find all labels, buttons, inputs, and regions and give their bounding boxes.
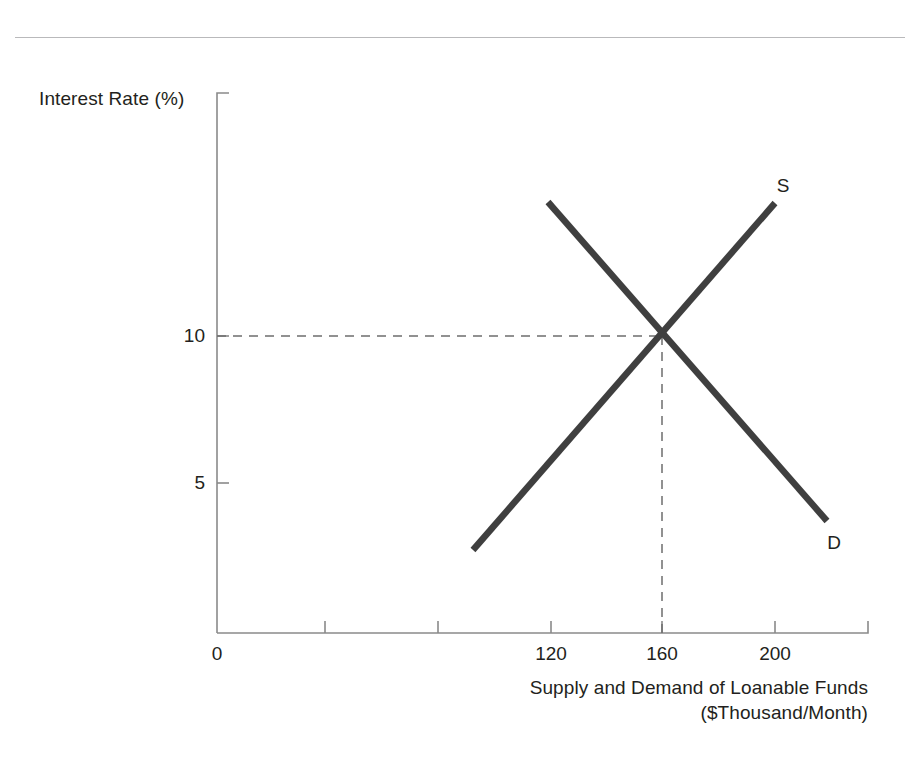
y-axis (217, 93, 229, 633)
supply-curve (473, 203, 775, 550)
x-axis (217, 621, 868, 633)
x-tick-label-200: 200 (759, 643, 791, 665)
x-axis-title: Supply and Demand of Loanable Funds ($Th… (530, 675, 868, 725)
supply-curve-label: S (777, 175, 790, 197)
y-axis-title: Interest Rate (%) (39, 88, 184, 110)
x-axis-title-line-2: ($Thousand/Month) (530, 700, 868, 725)
y-tick-label-5: 5 (194, 472, 205, 494)
equilibrium-guides (217, 336, 662, 633)
y-axis-ticks (217, 336, 229, 483)
x-axis-title-line-1: Supply and Demand of Loanable Funds (530, 675, 868, 700)
x-tick-label-160: 160 (646, 643, 678, 665)
x-tick-label-0: 0 (212, 643, 223, 665)
y-tick-label-10: 10 (184, 325, 205, 347)
economics-supply-demand-figure: Interest Rate (%) 10 5 0 120 160 200 S D… (0, 0, 912, 772)
x-tick-label-120: 120 (535, 643, 567, 665)
demand-curve (548, 202, 827, 521)
demand-curve-label: D (827, 532, 841, 554)
x-axis-ticks (325, 621, 775, 633)
